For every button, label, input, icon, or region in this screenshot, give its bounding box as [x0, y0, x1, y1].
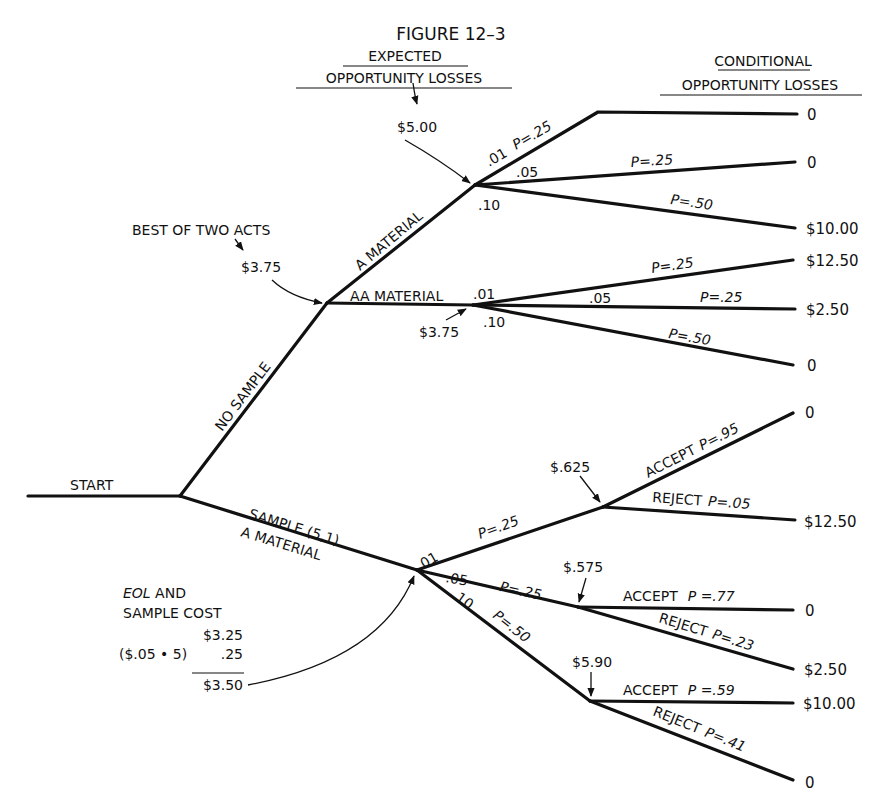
s-reject-05: REJECTP=.23 — [657, 610, 756, 654]
a-prob-05: P=.25 — [630, 151, 674, 170]
loss-value: 0 — [805, 404, 815, 422]
loss-value: $12.50 — [806, 252, 859, 270]
a-prob-01: P=.25 — [510, 117, 555, 152]
accept-prob: P =.59 — [688, 682, 735, 698]
loss-value: $10.00 — [806, 220, 859, 238]
s-prob-10: P=.50 — [490, 607, 533, 646]
s-reject-01: REJECTP=.05 — [652, 489, 751, 512]
aa-defect-10: .10 — [483, 314, 505, 330]
arrow-icon — [580, 476, 600, 502]
s-defect-10: .10 — [449, 586, 476, 612]
s-accept-05: ACCEPTP =.77 — [623, 588, 735, 604]
arrow-icon — [413, 83, 417, 104]
s-eol-01: $.625 — [550, 459, 590, 475]
s-accept-01: ACCEPTP=.95 — [642, 420, 741, 481]
aa-prob-05: P=.25 — [700, 289, 743, 305]
a-defect-05: .05 — [516, 164, 538, 180]
a-prob-10: P=.50 — [670, 191, 714, 213]
reject-prob: P=.05 — [708, 493, 752, 512]
loss-value: $2.50 — [804, 661, 847, 679]
eol-value: $3.25 — [203, 627, 243, 643]
s-defect-05: .05 — [444, 569, 469, 589]
aa-prob-01: P=.25 — [650, 254, 694, 276]
best-act-value: $3.75 — [241, 259, 281, 275]
loss-value: $2.50 — [806, 301, 849, 319]
reject-prob: P=.23 — [711, 626, 756, 654]
reject-label: REJECT — [657, 610, 710, 640]
a-material-eol: $5.00 — [397, 119, 437, 135]
loss-value: 0 — [805, 774, 815, 792]
expected-header-line1: EXPECTED — [368, 48, 442, 64]
aa-defect-01: .01 — [473, 286, 495, 302]
cost-formula: ($.05 • 5) — [119, 646, 187, 662]
loss-value: $12.50 — [804, 513, 857, 531]
loss-value: 0 — [805, 602, 815, 620]
arrow-icon — [579, 578, 586, 602]
total-value: $3.50 — [203, 677, 243, 693]
arrow-icon — [248, 576, 414, 685]
start-label: START — [70, 477, 114, 493]
eol-annotation-line1: EOL AND — [123, 585, 186, 601]
conditional-header-line2: OPPORTUNITY LOSSES — [682, 77, 839, 93]
accept-label: ACCEPT — [623, 682, 678, 698]
reject-label: REJECT — [651, 703, 704, 737]
a-defect-10: .10 — [478, 197, 500, 213]
aa-material-eol: $3.75 — [419, 324, 459, 340]
accept-prob: P =.77 — [688, 588, 735, 604]
aa-defect-05: .05 — [589, 290, 611, 306]
s-prob-05: P=.25 — [498, 578, 543, 602]
a-material-label: A MATERIAL — [352, 207, 426, 273]
s-eol-05: $.575 — [563, 559, 603, 575]
conditional-header-line1: CONDITIONAL — [714, 53, 812, 69]
cost-value: .25 — [221, 646, 243, 662]
expected-header-line2: OPPORTUNITY LOSSES — [326, 70, 483, 86]
loss-value: 0 — [807, 154, 817, 172]
s-accept-10: ACCEPTP =.59 — [623, 682, 735, 698]
accept-label: ACCEPT — [623, 588, 678, 604]
loss-value: 0 — [807, 106, 817, 124]
reject-prob: P=.41 — [703, 724, 748, 755]
arrow-icon — [405, 140, 470, 183]
best-of-two-acts-label: BEST OF TWO ACTS — [132, 222, 270, 238]
and-text: AND — [151, 585, 186, 601]
arrow-icon — [446, 309, 466, 320]
eol-abbrev: EOL — [123, 585, 151, 601]
eol-annotation-line2: SAMPLE COST — [123, 605, 222, 621]
decision-tree-diagram: FIGURE 12–3 EXPECTED OPPORTUNITY LOSSES … — [0, 0, 884, 808]
loss-value: 0 — [807, 357, 817, 375]
figure-title: FIGURE 12–3 — [396, 24, 505, 44]
arrow-icon — [235, 239, 243, 250]
reject-label: REJECT — [652, 489, 703, 508]
loss-value: $10.00 — [803, 695, 856, 713]
no-sample-label: NO SAMPLE — [212, 359, 274, 434]
s-eol-10: $5.90 — [572, 654, 612, 670]
aa-prob-10: P=.50 — [667, 325, 712, 348]
aa-material-label: AA MATERIAL — [350, 288, 443, 304]
arrow-icon — [272, 280, 322, 303]
